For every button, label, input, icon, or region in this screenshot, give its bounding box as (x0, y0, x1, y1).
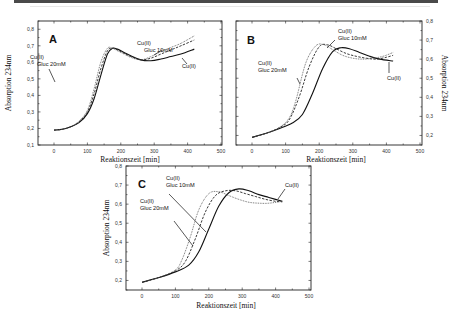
plot-frame (38, 21, 222, 145)
y-tick-label: 0,1 (27, 142, 34, 148)
y-tick-label: 0,5 (27, 76, 34, 82)
y-tick-label: 0,3 (115, 258, 122, 264)
x-tick-label: 200 (205, 293, 214, 299)
y-tick-label: 0,2 (115, 277, 122, 283)
y-tick-label: 0,4 (426, 94, 433, 100)
x-axis-title: Reaktionszeit [min] (100, 155, 159, 164)
x-tick-label: 400 (183, 148, 192, 154)
series-annotation: Gluc 10mM (166, 182, 195, 188)
chart-panel-b: 01002003004005000,20,30,40,50,60,70,8Rea… (236, 18, 449, 164)
y-tick-label: 0,2 (426, 132, 433, 138)
x-tick-label: 200 (315, 148, 324, 154)
y-tick-label: 0,6 (426, 56, 433, 62)
y-tick-label: 0,4 (115, 239, 122, 245)
x-tick-label: 300 (150, 148, 159, 154)
y-tick-label: 0,2 (27, 125, 34, 131)
y-axis-title: Absorption 234nm (440, 55, 449, 112)
series-annotation: Gluc 20mM (258, 67, 287, 73)
x-tick-label: 100 (83, 148, 92, 154)
x-axis-title: Reaktionszeit [min] (306, 155, 365, 164)
series-annotation: Cu(II) (182, 63, 196, 69)
annotation-leader-line (278, 189, 285, 199)
y-tick-label: 0,5 (115, 220, 122, 226)
series-annotation: Cu(II) (258, 60, 272, 66)
chart-panel-c: 01002003004005000,20,30,40,50,60,70,8Rea… (102, 163, 313, 310)
panel-letter: A (49, 33, 57, 45)
x-tick-label: 400 (382, 148, 391, 154)
series-annotation: Gluc 20mM (37, 61, 66, 67)
y-tick-label: 0,8 (115, 163, 122, 169)
y-axis-title: Absorption 234nm (4, 55, 13, 112)
series-line-cu-ii-gluc-10mm (54, 40, 194, 130)
y-tick-label: 0,6 (27, 59, 34, 65)
y-tick-label: 0,3 (27, 109, 34, 115)
x-tick-label: 200 (117, 148, 126, 154)
series-annotation: Cu(II) (140, 198, 154, 204)
x-tick-label: 300 (238, 293, 247, 299)
plot-frame (126, 166, 311, 290)
x-tick-label: 500 (416, 148, 425, 154)
panel-letter: C (138, 178, 146, 190)
series-annotation: Cu(II) (338, 28, 352, 34)
y-tick-label: 0,3 (426, 113, 433, 119)
series-annotation: Cu(II) (30, 54, 44, 60)
y-tick-label: 0,7 (426, 37, 433, 43)
figure-canvas: 01002003004005000,10,20,30,40,50,60,70,8… (0, 0, 460, 318)
y-tick-label: 0,8 (27, 26, 34, 32)
series-line-cu-ii-gluc-20mm (252, 44, 393, 137)
x-tick-label: 100 (171, 293, 180, 299)
chart-panel-a: 01002003004005000,10,20,30,40,50,60,70,8… (4, 21, 225, 164)
y-tick-label: 0,7 (115, 182, 122, 188)
annotation-leader-line (49, 69, 55, 82)
series-annotation: Cu(II) (387, 75, 401, 81)
x-tick-label: 500 (305, 293, 314, 299)
annotation-leader-line (327, 40, 335, 48)
x-tick-label: 0 (251, 148, 254, 154)
y-axis-title: Absorption 234nm (102, 200, 111, 257)
series-annotation: Cu(II) (285, 182, 299, 188)
x-axis-title: Reaktionszeit [min] (196, 301, 255, 310)
plot-frame (236, 21, 422, 145)
x-tick-label: 0 (53, 148, 56, 154)
series-annotation: Cu(II) (166, 175, 180, 181)
y-tick-label: 0,5 (426, 75, 433, 81)
annotation-leader-line (174, 221, 193, 246)
series-line-cu-ii (142, 189, 282, 283)
y-tick-label: 0,8 (426, 18, 433, 24)
series-annotation: Gluc 10mM (338, 35, 367, 41)
x-tick-label: 400 (271, 293, 280, 299)
panel-letter: B (247, 34, 255, 46)
series-line-cu-ii-gluc-20mm (54, 36, 194, 130)
y-tick-label: 0,7 (27, 43, 34, 49)
annotation-leader-line (297, 78, 300, 84)
x-tick-label: 500 (217, 148, 226, 154)
x-tick-label: 0 (141, 293, 144, 299)
annotation-leader-line (169, 194, 206, 232)
series-annotation: Cu(II) (137, 40, 151, 46)
series-annotation: Gluc 20mM (140, 205, 169, 211)
y-tick-label: 0,4 (27, 92, 34, 98)
x-tick-label: 100 (281, 148, 290, 154)
series-line-cu-ii (252, 48, 393, 138)
series-line-cu-ii (54, 48, 194, 130)
y-tick-label: 0,6 (115, 201, 122, 207)
x-tick-label: 300 (349, 148, 358, 154)
